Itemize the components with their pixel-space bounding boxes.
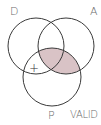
label-a: A [90,6,98,17]
plus-marker: + [29,62,39,74]
label-d: D [10,6,18,17]
label-p: P [48,110,55,121]
venn-diagram [0,0,101,125]
verdict-label: VALID [70,110,98,120]
